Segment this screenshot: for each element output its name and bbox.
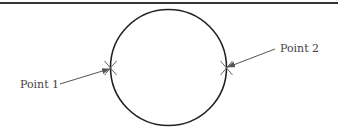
point-2-label: Point 2 <box>280 42 319 55</box>
circle-diagram: Point 1 Point 2 <box>0 0 338 132</box>
point-1-label: Point 1 <box>20 78 59 91</box>
circle-shape <box>111 10 227 126</box>
point-2-arrow-icon <box>228 49 275 67</box>
diagram-canvas: Point 1 Point 2 <box>0 0 338 132</box>
point-1-arrow-icon <box>60 69 109 84</box>
